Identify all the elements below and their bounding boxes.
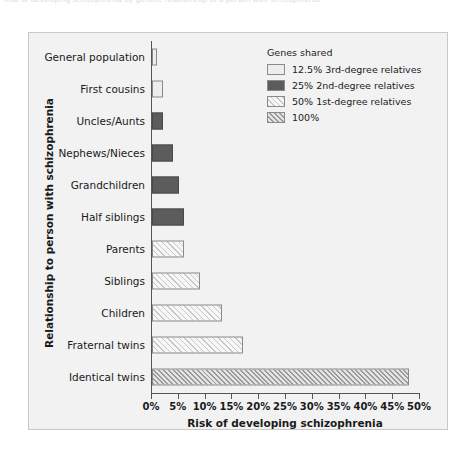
legend-item: 50% 1st-degree relatives <box>267 96 439 107</box>
y-axis-title: Relationship to person with schizophreni… <box>41 83 57 363</box>
x-tick <box>151 393 152 399</box>
x-tick-label: 0% <box>143 401 160 412</box>
category-label: First cousins <box>80 83 145 95</box>
category-label: Uncles/Aunts <box>76 115 145 127</box>
legend-swatch-50-percent <box>267 96 285 107</box>
caption-strip: Risk of developing schizophrenia by gene… <box>0 0 471 10</box>
x-tick <box>258 393 259 399</box>
x-tick <box>339 393 340 399</box>
bar <box>152 369 409 386</box>
bar <box>152 49 157 66</box>
bar-row: Identical twins <box>151 361 419 393</box>
x-tick-label: 40% <box>353 401 377 412</box>
legend-item-label: 12.5% 3rd-degree relatives <box>292 64 422 75</box>
x-tick <box>312 393 313 399</box>
x-tick-label: 15% <box>219 401 243 412</box>
category-label: Identical twins <box>69 371 145 383</box>
category-label: Children <box>101 307 145 319</box>
legend-item-label: 100% <box>292 112 319 123</box>
caption-text: Risk of developing schizophrenia by gene… <box>4 0 471 4</box>
x-tick-label: 50% <box>407 401 431 412</box>
bar <box>152 337 243 354</box>
category-label: Fraternal twins <box>67 339 145 351</box>
x-tick-label: 20% <box>246 401 270 412</box>
chart-figure: Relationship to person with schizophreni… <box>28 32 448 430</box>
x-tick <box>392 393 393 399</box>
x-tick <box>231 393 232 399</box>
bar-row: Half siblings <box>151 201 419 233</box>
legend-item: 25% 2nd-degree relatives <box>267 80 439 91</box>
x-tick-label: 35% <box>327 401 351 412</box>
legend-items: 12.5% 3rd-degree relatives25% 2nd-degree… <box>267 64 439 123</box>
bar-row: Fraternal twins <box>151 329 419 361</box>
bar <box>152 241 184 258</box>
x-tick-label: 25% <box>273 401 297 412</box>
bar-row: Siblings <box>151 265 419 297</box>
category-label: Half siblings <box>81 211 145 223</box>
x-axis-title: Risk of developing schizophrenia <box>151 417 419 429</box>
x-tick-label: 30% <box>300 401 324 412</box>
category-label: Siblings <box>104 275 145 287</box>
bar <box>152 177 179 194</box>
x-tick-label: 45% <box>380 401 404 412</box>
bar <box>152 209 184 226</box>
legend-title: Genes shared <box>267 47 439 58</box>
x-tick <box>365 393 366 399</box>
legend-swatch-100-percent <box>267 112 285 123</box>
x-tick <box>205 393 206 399</box>
x-tick-label: 10% <box>193 401 217 412</box>
category-label: Grandchildren <box>71 179 145 191</box>
bar-row: Children <box>151 297 419 329</box>
legend-item-label: 50% 1st-degree relatives <box>292 96 411 107</box>
legend-item: 12.5% 3rd-degree relatives <box>267 64 439 75</box>
legend: Genes shared 12.5% 3rd-degree relatives2… <box>267 47 439 128</box>
x-tick <box>178 393 179 399</box>
legend-item: 100% <box>267 112 439 123</box>
bar <box>152 273 200 290</box>
x-tick <box>285 393 286 399</box>
bar <box>152 113 163 130</box>
category-label: Nephews/Nieces <box>58 147 145 159</box>
bar-row: Grandchildren <box>151 169 419 201</box>
category-label: General population <box>44 51 145 63</box>
legend-swatch-12-percent <box>267 64 285 75</box>
bar <box>152 81 163 98</box>
legend-item-label: 25% 2nd-degree relatives <box>292 80 415 91</box>
x-tick <box>419 393 420 399</box>
bar <box>152 305 222 322</box>
bar <box>152 145 173 162</box>
bar-row: Nephews/Nieces <box>151 137 419 169</box>
category-label: Parents <box>106 243 145 255</box>
legend-swatch-25-percent <box>267 80 285 91</box>
x-tick-label: 5% <box>169 401 186 412</box>
bar-row: Parents <box>151 233 419 265</box>
